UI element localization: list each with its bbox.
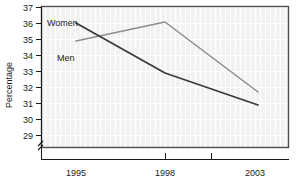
y-tick-label: 33 [23, 67, 33, 77]
y-tick-label: 30 [23, 115, 33, 125]
series-label-men: Men [57, 53, 75, 63]
x-tick-label: 1995 [66, 168, 86, 178]
x-tick-label: 2003 [245, 168, 265, 178]
y-tick-label: 37 [23, 3, 33, 13]
y-tick-label: 32 [23, 83, 33, 93]
x-axis [42, 153, 290, 160]
axis-break-icon [38, 141, 43, 150]
x-tick-label: 1998 [155, 168, 175, 178]
chart-container: 37 36 35 34 33 32 31 30 29 Percentage 19… [0, 0, 304, 183]
y-tick-labels: 37 36 35 34 33 32 31 30 29 [23, 3, 33, 141]
y-tick-label: 29 [23, 131, 33, 141]
y-axis [36, 6, 42, 160]
series-label-women: Women [47, 18, 78, 28]
x-tick-labels: 1995 1998 2003 [66, 168, 265, 178]
y-tick-label: 35 [23, 35, 33, 45]
line-chart: 37 36 35 34 33 32 31 30 29 Percentage 19… [0, 0, 304, 183]
y-axis-title: Percentage [4, 62, 14, 108]
y-tick-label: 31 [23, 99, 33, 109]
y-tick-label: 34 [23, 51, 33, 61]
y-tick-label: 36 [23, 19, 33, 29]
